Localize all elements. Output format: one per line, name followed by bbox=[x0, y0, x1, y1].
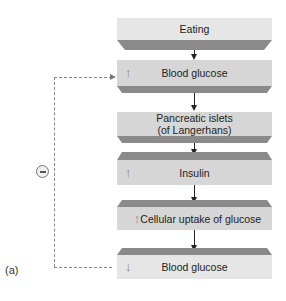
bevel-top bbox=[117, 248, 272, 255]
up-arrow-icon: ↑ bbox=[125, 67, 132, 79]
bevel-bottom bbox=[117, 40, 272, 50]
step-label: Blood glucose bbox=[162, 67, 228, 79]
step-label: Blood glucose bbox=[162, 261, 228, 273]
feedback-arrowhead-icon bbox=[110, 74, 116, 80]
bevel-top bbox=[117, 200, 272, 207]
down-arrow-icon: ↓ bbox=[125, 261, 132, 273]
bevel-bottom bbox=[117, 86, 272, 93]
feedback-line-vertical bbox=[54, 77, 55, 267]
minus-circle-icon bbox=[36, 165, 49, 178]
step-label: Eating bbox=[180, 23, 210, 35]
step-label: Cellular uptake of glucose bbox=[140, 213, 261, 225]
step-label-line1: Pancreatic islets bbox=[156, 112, 232, 124]
arrowhead-icon bbox=[191, 105, 197, 111]
step-label-with-indicator: ↑Cellular uptake of glucose bbox=[128, 213, 261, 225]
step-eating: Eating bbox=[117, 18, 272, 52]
feedback-line-top bbox=[54, 77, 112, 78]
step-label-line2: (of Langerhans) bbox=[157, 124, 231, 136]
bevel-bottom bbox=[117, 136, 272, 143]
bevel-top bbox=[117, 152, 272, 160]
step-pancreatic-islets: Pancreatic islets (of Langerhans) bbox=[117, 112, 272, 144]
step-label: Insulin bbox=[179, 167, 209, 179]
panel-label: (a) bbox=[5, 264, 18, 276]
step-blood-glucose-down: ↓ Blood glucose bbox=[117, 248, 272, 280]
step-cellular-uptake-up: ↑Cellular uptake of glucose bbox=[117, 200, 272, 232]
up-arrow-icon: ↑ bbox=[125, 166, 132, 178]
feedback-line-bottom bbox=[54, 267, 112, 268]
step-blood-glucose-up: ↑ Blood glucose bbox=[117, 60, 272, 94]
step-insulin-up: ↑ Insulin bbox=[117, 152, 272, 186]
